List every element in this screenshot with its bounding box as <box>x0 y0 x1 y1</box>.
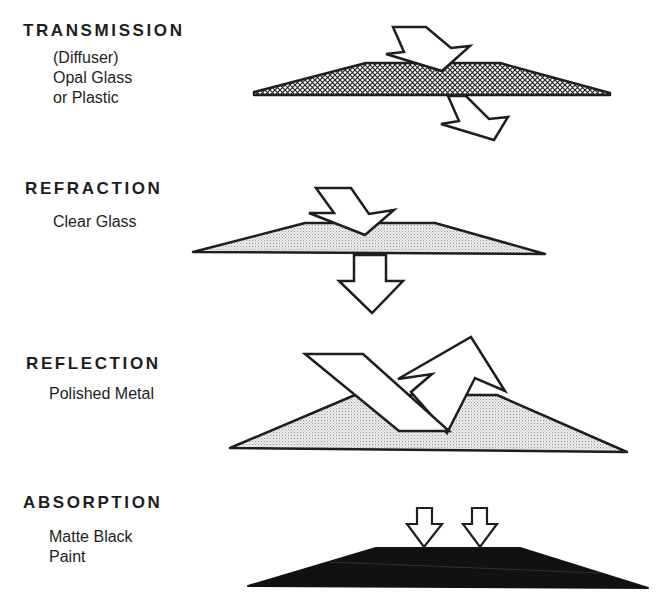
reflection-illustration <box>230 337 627 452</box>
absorbed-light-arrow-icon <box>407 508 442 547</box>
refraction-illustration <box>193 188 545 313</box>
absorbed-light-arrow-icon <box>463 508 497 547</box>
absorption-illustration <box>248 508 648 588</box>
refracted-light-arrow-icon <box>339 255 403 313</box>
matte-black-slab <box>248 548 648 588</box>
light-interaction-diagram <box>0 0 663 604</box>
transmission-illustration <box>254 27 610 140</box>
diffused-light-arrow-icon <box>441 96 508 140</box>
